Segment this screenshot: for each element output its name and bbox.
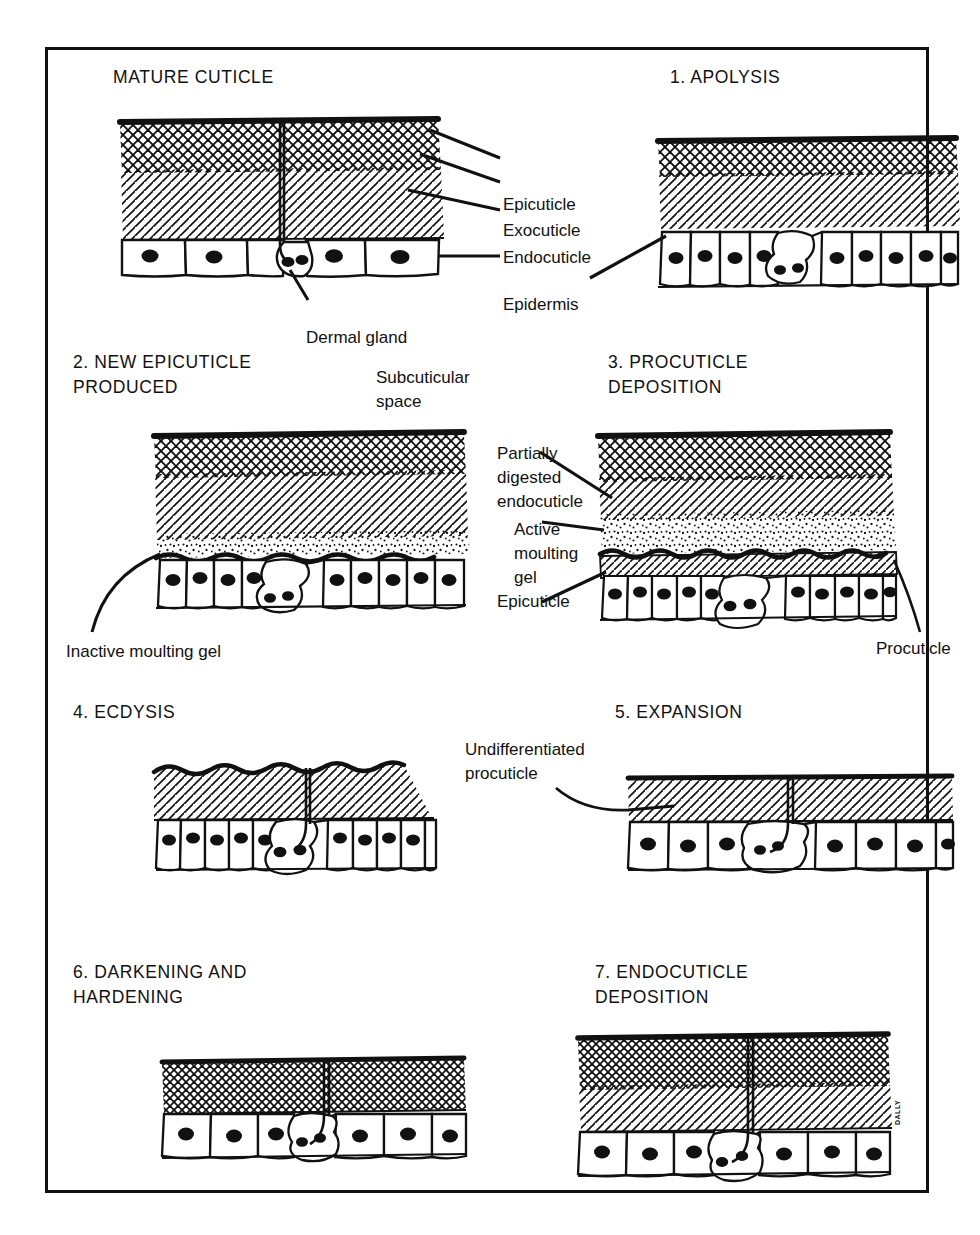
endocuticle-layer: [579, 1082, 892, 1132]
label-inactive-moulting-gel: Inactive moulting gel: [66, 640, 221, 664]
label-epicuticle-new: Epicuticle: [497, 590, 570, 614]
panel-expansion: 5. EXPANSION: [498, 690, 932, 920]
diagram-endocuticle-deposition: [568, 1024, 928, 1184]
panel-endocuticle-deposition: 7. ENDOCUTICLE DEPOSITION: [498, 950, 932, 1200]
panel-title-new-epicuticle-produced: 2. NEW EPICUTICLE PRODUCED: [73, 350, 251, 400]
leader-procuticle: [894, 560, 920, 632]
endocuticle-layer: [155, 470, 468, 540]
panel-ecdysis: 4. ECDYSIS: [48, 690, 498, 920]
exocuticle-layer: [658, 140, 958, 177]
exocuticle-layer: [162, 1060, 466, 1114]
endocuticle-layer: [121, 167, 444, 240]
diagram-new-epicuticle-produced: [146, 426, 496, 626]
figure-border: MATURE CUTICLE: [45, 47, 929, 1193]
panel-darkening-and-hardening: 6. DARKENING AND HARDENING: [48, 950, 498, 1200]
dermal-gland: [715, 575, 769, 628]
exocuticle-layer: [578, 1036, 890, 1090]
procuticle-layer: [154, 762, 432, 820]
dermal-gland: [265, 819, 317, 874]
active-moulting-gel-layer: [600, 510, 896, 554]
panel-title-darkening-and-hardening: 6. DARKENING AND HARDENING: [73, 960, 247, 1010]
panel-apolysis: 1. APOLYSIS: [498, 50, 932, 340]
panel-title-apolysis: 1. APOLYSIS: [670, 65, 780, 90]
undifferentiated-procuticle-top: [628, 776, 952, 778]
diagram-expansion: [564, 754, 964, 884]
panel-procuticle-deposition: 3. PROCUTICLE DEPOSITION: [498, 340, 932, 660]
panel-title-ecdysis: 4. ECDYSIS: [73, 700, 175, 725]
label-undifferentiated-procuticle: Undifferentiated procuticle: [465, 738, 585, 786]
epidermis-cells: [158, 560, 464, 608]
panel-title-mature-cuticle: MATURE CUTICLE: [113, 65, 274, 90]
diagram-apolysis: [650, 132, 980, 312]
diagram-darkening-and-hardening: [146, 1050, 496, 1170]
panel-new-epicuticle-produced: 2. NEW EPICUTICLE PRODUCED: [48, 340, 498, 640]
undifferentiated-procuticle-layer: [628, 778, 953, 822]
dermal-gland: [257, 559, 309, 612]
leader-inactive-gel: [92, 554, 160, 632]
dermal-gland: [288, 1113, 338, 1161]
artist-signature: DALLY: [894, 1100, 901, 1125]
leader-subcuticular: [590, 236, 666, 278]
panel-title-endocuticle-deposition: 7. ENDOCUTICLE DEPOSITION: [595, 960, 748, 1010]
inactive-moulting-gel-layer: [156, 530, 470, 558]
panel-title-procuticle-deposition: 3. PROCUTICLE DEPOSITION: [608, 350, 748, 400]
panel-title-expansion: 5. EXPANSION: [615, 700, 742, 725]
diagram-ecdysis: [148, 750, 488, 880]
label-partially-digested-endocuticle: Partially digested endocuticle: [497, 442, 615, 514]
label-procuticle: Procuticle: [876, 637, 951, 661]
diagram-procuticle-deposition: [590, 426, 940, 636]
endocuticle-layer: [659, 171, 960, 229]
panel-mature-cuticle: MATURE CUTICLE: [48, 50, 498, 340]
label-active-moulting-gel: Active moulting gel: [514, 518, 578, 590]
diagram-mature-cuticle: [108, 110, 468, 290]
